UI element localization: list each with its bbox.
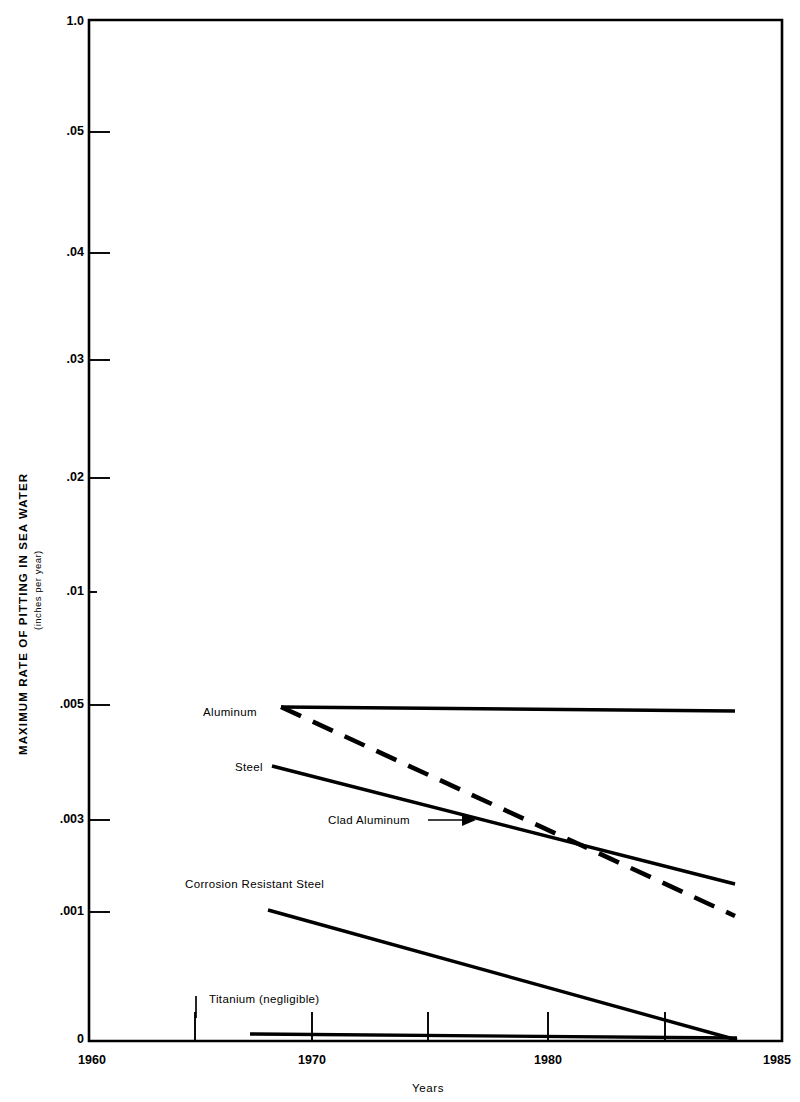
x-tick-label: 1970: [298, 1053, 326, 1067]
y-tick-label: .02: [67, 470, 84, 484]
series-line-titanium: [250, 1034, 737, 1038]
series-label-steel: Steel: [235, 761, 263, 773]
series-label-clad-aluminum: Clad Aluminum: [328, 814, 410, 826]
y-tick-label: .003: [60, 812, 84, 826]
y-tick-label: .01: [67, 584, 84, 598]
y-tick-label: .05: [67, 124, 84, 138]
y-tick-label: .001: [60, 904, 84, 918]
y-axis-ticks: [89, 132, 110, 912]
series-label-aluminum: Aluminum: [203, 706, 257, 718]
pitting-rate-line-chart: 1.0 .05 .04 .03 .02 .01 .005 .003 .001 0…: [0, 0, 800, 1102]
y-axis-title-group: MAXIMUM RATE OF PITTING IN SEA WATER (in…: [17, 473, 43, 755]
data-series-group: [250, 707, 737, 1040]
y-axis-subtitle: (inches per year): [32, 550, 43, 630]
series-label-corrosion-resistant-steel: Corrosion Resistant Steel: [185, 878, 324, 890]
x-tick-label: 1985: [763, 1053, 791, 1067]
y-axis-title: MAXIMUM RATE OF PITTING IN SEA WATER: [17, 473, 29, 755]
y-axis-tick-labels: 1.0 .05 .04 .03 .02 .01 .005 .003 .001 0: [60, 14, 84, 1046]
series-line-clad-aluminum: [281, 707, 735, 916]
x-axis-title: Years: [412, 1082, 444, 1094]
series-leader-lines: [196, 814, 476, 1018]
series-labels-group: Aluminum Steel Clad Aluminum Corrosion R…: [185, 706, 410, 1005]
chart-figure: 1.0 .05 .04 .03 .02 .01 .005 .003 .001 0…: [0, 0, 800, 1102]
x-tick-label: 1960: [78, 1053, 106, 1067]
series-label-titanium: Titanium (negligible): [209, 993, 319, 1005]
y-tick-label: 0: [77, 1032, 84, 1046]
y-tick-label: .005: [60, 697, 84, 711]
series-line-aluminum: [281, 707, 735, 711]
y-tick-label: .04: [67, 245, 84, 259]
x-axis-tick-labels: 1960 1970 1980 1985: [78, 1053, 791, 1067]
y-tick-label: 1.0: [67, 14, 84, 28]
series-line-corrosion-resistant-steel: [268, 910, 737, 1040]
x-tick-label: 1980: [534, 1053, 562, 1067]
y-tick-label: .03: [67, 352, 84, 366]
